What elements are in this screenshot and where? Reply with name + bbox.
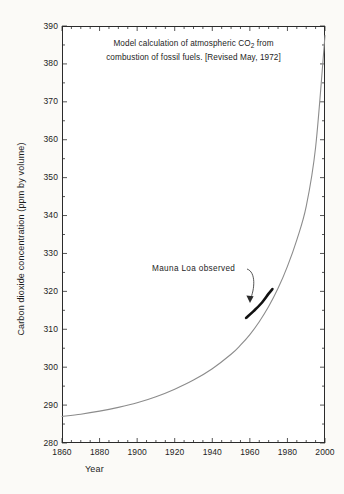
x-tick-label: 1900: [117, 447, 157, 457]
x-tick-label: 1860: [42, 447, 82, 457]
figure: 280290300310320330340350360370380390 186…: [0, 0, 344, 494]
x-tick-label: 1880: [80, 447, 120, 457]
y-tick-label: 350: [6, 173, 58, 182]
chart-title-text-b: from: [254, 39, 273, 48]
x-tick-label: 2000: [305, 447, 344, 457]
y-tick-label: 320: [6, 287, 58, 296]
y-tick-label: 290: [6, 401, 58, 410]
y-tick-label: 330: [6, 249, 58, 258]
y-tick-label: 340: [6, 211, 58, 220]
x-tick-label: 1980: [267, 447, 307, 457]
y-tick-label: 360: [6, 135, 58, 144]
y-tick-label: 370: [6, 97, 58, 106]
y-tick-label: 380: [6, 59, 58, 68]
y-tick-label: 300: [6, 363, 58, 372]
plot-area: [62, 26, 325, 443]
y-tick-label: 390: [6, 22, 58, 31]
mauna-loa-annotation-label: Mauna Loa observed: [152, 264, 235, 273]
y-axis-tick-labels: 280290300310320330340350360370380390: [0, 0, 58, 494]
y-tick-label: 310: [6, 325, 58, 334]
chart-title: Model calculation of atmospheric CO2 fro…: [62, 38, 325, 65]
chart-title-line-2: combustion of fossil fuels. [Revised May…: [62, 52, 325, 65]
x-axis-title: Year: [85, 464, 104, 474]
x-tick-label: 1920: [155, 447, 195, 457]
chart-title-line-1: Model calculation of atmospheric CO2 fro…: [62, 38, 325, 52]
y-axis-title: Carbon dioxide concentration (ppm by vol…: [16, 139, 26, 339]
x-axis-tick-labels: 18601880190019201940196019802000: [0, 447, 344, 461]
x-tick-label: 1940: [192, 447, 232, 457]
x-tick-label: 1960: [230, 447, 270, 457]
chart-title-text-a: Model calculation of atmospheric CO: [113, 39, 250, 48]
